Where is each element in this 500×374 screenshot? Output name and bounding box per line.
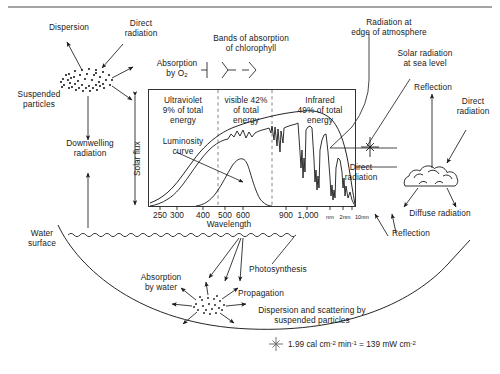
arrow-water-scatter-l [172, 304, 192, 306]
arrow-photosynthesis-3 [240, 238, 243, 281]
arrow-photosynthesis-2 [225, 238, 241, 281]
footnote-equals: = [359, 339, 364, 349]
absorption-o2-subscript: 2 [184, 73, 187, 79]
footnote-value-2: 139 [366, 339, 380, 349]
absorption-o2-text: Absorption by O [157, 58, 198, 78]
footnote-unit-3: mW cm [382, 339, 410, 349]
cloud-shape [404, 166, 457, 186]
label-solar-radiation-sea-level: Solar radiation at sea level [379, 48, 471, 68]
label-radiation-edge-atmosphere: Radiation at edge of atmosphere [324, 17, 454, 37]
chart-band-label-ultraviolet: Ultraviolet 9% of total energy [152, 95, 214, 126]
label-propagation: Propagation [238, 288, 284, 298]
chart-x-axis-label: Wavelength [194, 219, 264, 229]
label-absorption-by-water: Absorption by water [128, 272, 194, 292]
arrow-water-scatter-up [206, 282, 208, 295]
chart-y-axis-label: Solar flux [132, 141, 142, 176]
leader-sea-level [367, 79, 410, 146]
label-direct-radiation-chart: Direct radiation [335, 162, 387, 182]
footnote-exp-1: -2 [330, 340, 335, 346]
arrow-diffuse-left [404, 188, 418, 207]
chlorophyll-band-markers [222, 62, 256, 78]
xtick-1000: 1,000 [293, 211, 323, 220]
suspended-particle-cloud-water [193, 295, 225, 315]
footnote-unit-2: min [338, 339, 351, 349]
label-reflection-upper: Reflection [405, 82, 461, 92]
xtick-300: 300 [165, 211, 189, 220]
arrow-scatter-right [112, 67, 133, 78]
footnote-exp-3: -2 [411, 340, 416, 346]
footnote-formula: 1.99 cal cm-2 min-1 = 139 mW cm-2 [288, 339, 416, 349]
chart-annotation-luminosity: Luminosity curve [152, 136, 214, 156]
footnote-star-icon [269, 337, 283, 351]
label-bands-of-absorption: Bands of absorption of chlorophyll [196, 33, 306, 53]
arrow-diffuse-right [447, 188, 456, 207]
arrow-water-scatter-ur [222, 288, 238, 299]
footnote-exp-2: -1 [351, 340, 356, 346]
label-direct-radiation-top: Direct radiation [112, 18, 170, 38]
sun-star-icon [361, 137, 379, 157]
chart-band-label-visible: visible 42% of total energy [218, 95, 274, 126]
water-surface-wave [68, 233, 296, 236]
xtick-unit-10nm: 10nm [351, 213, 373, 222]
label-direct-radiation-cloud: Direct radiation [448, 96, 498, 116]
label-photosynthesis: Photosynthesis [249, 264, 307, 274]
leader-photosynthesis [272, 237, 294, 264]
arrow-cloud-direct-radiation [447, 130, 466, 163]
arrow-water-scatter-dl [183, 312, 197, 324]
arrow-direct-radiation-in [102, 44, 123, 68]
label-diffuse-radiation: Diffuse radiation [396, 208, 484, 218]
label-absorption-by-o2: Absorption by O2 [150, 58, 204, 81]
footnote-value-1: 1.99 [288, 339, 304, 349]
label-reflection-surface: Reflection [392, 228, 430, 238]
label-dispersion: Dispersion [34, 22, 104, 32]
figure-root: Dispersion Direct radiation Suspended pa… [0, 0, 500, 374]
label-suspended-particles: Suspended particles [6, 89, 72, 109]
label-water-surface: Water surface [18, 228, 66, 248]
arrow-dispersion [67, 42, 82, 70]
chart-band-label-infrared: Infrared 49% of total energy [288, 95, 352, 126]
arrow-scatter-downright [112, 86, 132, 100]
arrow-photosynthesis-1 [209, 238, 239, 278]
label-downwelling-radiation: Downwelling radiation [56, 138, 124, 158]
label-dispersion-scattering: Dispersion and scattering by suspended p… [232, 305, 392, 325]
arrow-surface-reflection-1 [375, 214, 388, 236]
footnote-unit-1: cal cm [306, 339, 330, 349]
